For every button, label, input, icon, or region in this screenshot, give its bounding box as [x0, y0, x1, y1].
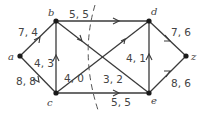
edge-label-b-e: 3, 2: [103, 73, 123, 85]
node-d: [146, 18, 151, 23]
edge-label-d-c: 4, 0: [64, 72, 84, 84]
edge-label-a-c: 8, 8: [16, 75, 36, 87]
node-label-b: b: [48, 7, 54, 18]
edge-label-b-d: 5, 5: [69, 8, 89, 20]
node-c: [53, 90, 58, 95]
edge-label-d-z: 7, 6: [171, 26, 191, 38]
node-a: [17, 53, 22, 58]
arrow-icon-e-z: [164, 71, 170, 77]
node-label-z: z: [190, 51, 197, 62]
node-label-c: c: [47, 97, 53, 108]
node-label-a: a: [8, 51, 14, 62]
flow-network-diagram: a b c d e z 7, 4 8, 8 4, 3 5, 5 3, 2 4, …: [0, 0, 217, 115]
edge-label-a-b: 7, 4: [18, 26, 38, 38]
edge-label-e-z: 8, 6: [171, 77, 191, 89]
node-label-e: e: [151, 95, 157, 106]
edge-label-c-e: 5, 5: [111, 96, 131, 108]
node-b: [53, 18, 58, 23]
edge-label-c-b: 4, 3: [34, 57, 54, 69]
node-label-d: d: [151, 6, 157, 17]
node-z: [183, 53, 188, 58]
edge-label-e-d: 4, 1: [126, 52, 146, 64]
